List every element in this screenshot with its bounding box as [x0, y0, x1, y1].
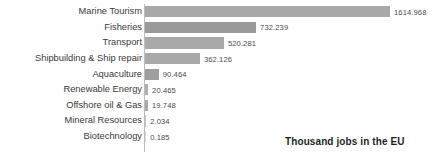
chart-row: Fisheries 732.239 — [0, 20, 442, 36]
category-label: Renewable Energy — [0, 84, 145, 95]
bar-group: 90.464 — [145, 69, 159, 80]
bar-chart: Marine Tourism 1614.968 Fisheries 732.23… — [0, 0, 442, 158]
chart-row: Offshore oil & Gas 19.748 — [0, 98, 442, 114]
bar-group: 520.281 — [145, 37, 224, 48]
bar-value-label: 520.281 — [224, 38, 256, 47]
category-label: Marine Tourism — [0, 6, 145, 17]
bar-value-label: 2.034 — [146, 116, 170, 125]
chart-row: Aquaculture 90.464 — [0, 66, 442, 82]
bar-value-label: 19.748 — [148, 101, 176, 110]
chart-row: Marine Tourism 1614.968 — [0, 4, 442, 20]
chart-row: Mineral Resources 2.034 — [0, 113, 442, 129]
bar-group: 19.748 — [145, 100, 148, 111]
chart-annotation: Thousand jobs in the EU — [285, 136, 405, 147]
category-label: Mineral Resources — [0, 115, 145, 126]
bar-group: 1614.968 — [145, 6, 390, 17]
bar-value-label: 1614.968 — [390, 7, 426, 16]
bar-group: 362.126 — [145, 53, 200, 64]
bar[interactable] — [145, 22, 256, 33]
category-label: Offshore oil & Gas — [0, 100, 145, 111]
bar[interactable] — [145, 69, 159, 80]
bar-group: 732.239 — [145, 22, 256, 33]
category-label: Biotechnology — [0, 131, 145, 142]
bar[interactable] — [145, 37, 224, 48]
bar[interactable] — [145, 53, 200, 64]
category-label: Shipbuilding & Ship repair — [0, 53, 145, 64]
bar-value-label: 20.465 — [148, 85, 176, 94]
category-label: Transport — [0, 37, 145, 48]
plot-area: Marine Tourism 1614.968 Fisheries 732.23… — [0, 0, 442, 158]
bar-group: 20.465 — [145, 84, 148, 95]
bar-group: 0.185 — [145, 131, 146, 142]
chart-row: Renewable Energy 20.465 — [0, 82, 442, 98]
bar[interactable] — [145, 6, 390, 17]
bar-value-label: 90.464 — [159, 70, 187, 79]
chart-row: Transport 520.281 — [0, 35, 442, 51]
category-label: Aquaculture — [0, 69, 145, 80]
category-label: Fisheries — [0, 22, 145, 33]
bar-group: 2.034 — [145, 115, 146, 126]
bar-value-label: 362.126 — [200, 54, 232, 63]
bar-value-label: 732.239 — [256, 23, 288, 32]
chart-row: Shipbuilding & Ship repair 362.126 — [0, 51, 442, 67]
bar-value-label: 0.185 — [146, 132, 170, 141]
